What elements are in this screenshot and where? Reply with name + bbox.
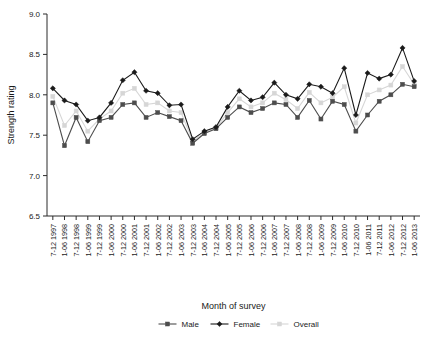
data-point-marker <box>342 66 347 71</box>
x-tick-label: 7-12 2005 <box>235 224 244 256</box>
data-point-marker <box>389 93 393 97</box>
legend-label: Female <box>234 320 261 329</box>
x-tick-label: 7-12 2002 <box>165 224 174 256</box>
legend-item-overall[interactable]: Overall <box>271 320 320 329</box>
data-point-marker <box>74 109 78 113</box>
x-tick-label: 1-06 2013 <box>410 224 419 256</box>
y-tick-label: 7.0 <box>29 172 41 181</box>
data-point-marker <box>226 111 230 115</box>
data-point-marker <box>51 94 55 98</box>
data-point-marker <box>109 109 113 113</box>
data-point-marker <box>132 101 136 105</box>
data-point-marker <box>167 115 171 119</box>
data-point-marker <box>307 98 311 102</box>
x-tick-label: 7-12 2010 <box>352 224 361 256</box>
data-point-marker <box>272 91 276 95</box>
data-point-marker <box>412 85 416 89</box>
x-tick-label: 7-12 2009 <box>329 224 338 256</box>
data-point-marker <box>86 140 90 144</box>
data-point-marker <box>377 88 381 92</box>
x-tick-label: 7-12 1999 <box>95 224 104 256</box>
x-tick-label: 1-06 1998 <box>60 224 69 256</box>
data-point-marker <box>342 85 346 89</box>
x-tick-label: 7-12 2007 <box>282 224 291 256</box>
legend-label: Overall <box>294 320 320 329</box>
data-point-marker <box>237 97 241 101</box>
data-point-marker <box>365 70 370 75</box>
data-point-marker <box>272 101 276 105</box>
data-point-marker <box>319 101 323 105</box>
x-tick-label: 1-06 2004 <box>200 224 209 256</box>
data-point-marker <box>354 129 358 133</box>
series-female <box>50 45 417 142</box>
data-point-marker <box>318 84 323 89</box>
x-tick-label: 7-12 2012 <box>399 224 408 256</box>
data-point-marker <box>388 72 393 77</box>
data-point-marker <box>109 115 113 119</box>
y-axis-title: Strength rating <box>6 85 16 144</box>
x-tick-label: 1-06 2003 <box>177 224 186 256</box>
legend: MaleFemaleOverall <box>159 320 320 329</box>
data-point-marker <box>226 115 230 119</box>
data-point-marker <box>144 115 148 119</box>
data-point-marker <box>307 90 311 94</box>
chart-container: 6.57.07.58.08.59.07-12 19971-06 19987-12… <box>0 0 434 342</box>
data-point-marker <box>121 91 125 95</box>
data-point-marker <box>62 124 66 128</box>
data-point-marker <box>121 102 125 106</box>
x-tick-label: 1-06 2009 <box>317 224 326 256</box>
data-point-marker <box>296 115 300 119</box>
data-point-marker <box>166 322 170 326</box>
y-tick-label: 6.5 <box>29 212 41 221</box>
data-point-marker <box>74 115 78 119</box>
data-point-marker <box>261 107 265 111</box>
line-chart: 6.57.07.58.08.59.07-12 19971-06 19987-12… <box>0 0 434 342</box>
data-point-marker <box>389 83 393 87</box>
x-tick-label: 1-06 2006 <box>247 224 256 256</box>
x-tick-label: 1-06 2008 <box>294 224 303 256</box>
axis-labels: 6.57.07.58.08.59.07-12 19971-06 19987-12… <box>6 10 419 311</box>
data-point-marker <box>167 109 171 113</box>
x-tick-label: 7-12 2004 <box>212 224 221 256</box>
data-point-marker <box>178 102 183 107</box>
x-tick-label: 1-06 2001 <box>130 224 139 256</box>
data-point-marker <box>51 101 55 105</box>
data-point-marker <box>354 121 358 125</box>
data-point-marker <box>132 86 136 90</box>
data-point-marker <box>237 105 241 109</box>
data-point-marker <box>377 99 381 103</box>
y-tick-label: 7.5 <box>29 131 41 140</box>
x-tick-label: 1-06 1999 <box>84 224 93 256</box>
data-point-marker <box>62 144 66 148</box>
x-tick-label: 1-06 2000 <box>107 224 116 256</box>
data-point-marker <box>156 111 160 115</box>
data-point-marker <box>366 93 370 97</box>
data-point-marker <box>144 102 148 106</box>
data-point-marker <box>217 321 222 326</box>
legend-item-male[interactable]: Male <box>159 320 200 329</box>
x-tick-label: 1-06 2011 <box>364 224 373 256</box>
y-tick-label: 9.0 <box>29 10 41 19</box>
data-point-marker <box>278 322 282 326</box>
x-tick-label: 7-12 2001 <box>142 224 151 256</box>
x-tick-label: 1-06 2012 <box>387 224 396 256</box>
series-line <box>53 67 414 141</box>
data-point-marker <box>284 102 288 106</box>
data-series <box>50 45 417 147</box>
x-tick-label: 7-12 1998 <box>72 224 81 256</box>
series-line <box>53 84 414 145</box>
data-point-marker <box>179 111 183 115</box>
x-tick-label: 1-06 2010 <box>340 224 349 256</box>
data-point-marker <box>249 111 253 115</box>
data-point-marker <box>179 119 183 123</box>
data-point-marker <box>296 107 300 111</box>
legend-item-female[interactable]: Female <box>211 320 261 329</box>
x-tick-label: 1-06 2007 <box>270 224 279 256</box>
data-point-marker <box>86 129 90 133</box>
x-tick-label: 7-12 1997 <box>49 224 58 256</box>
x-tick-label: 7-12 2008 <box>305 224 314 256</box>
x-tick-label: 7-12 2003 <box>189 224 198 256</box>
data-point-marker <box>319 117 323 121</box>
data-point-marker <box>284 98 288 102</box>
data-point-marker <box>261 101 265 105</box>
